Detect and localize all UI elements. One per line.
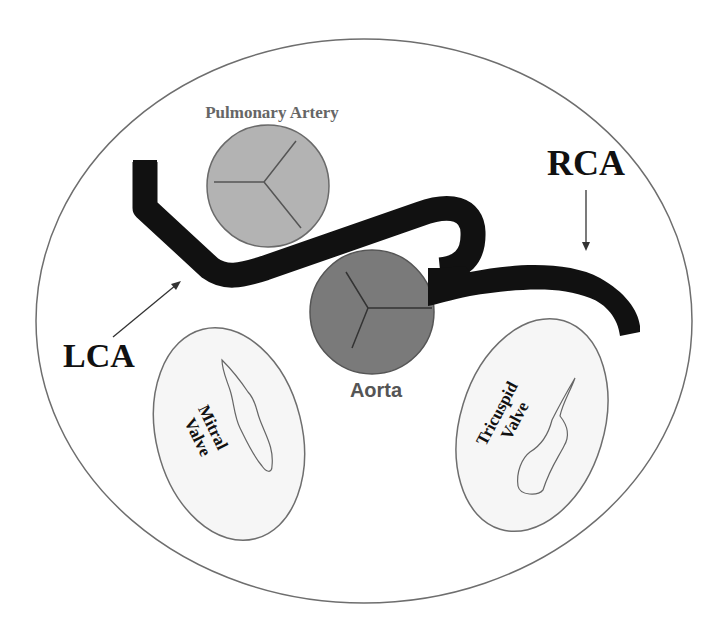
lca-label: LCA <box>63 337 135 374</box>
rca-label: RCA <box>547 143 625 183</box>
aorta-label: Aorta <box>350 379 403 401</box>
heart-valve-diagram: Pulmonary Artery Aorta RCA LCA Mitral Va… <box>0 0 721 623</box>
pulmonary-artery <box>207 125 329 247</box>
pulmonary-artery-label: Pulmonary Artery <box>205 103 339 122</box>
lca-vessel-cap <box>133 160 157 170</box>
aorta <box>310 250 434 374</box>
